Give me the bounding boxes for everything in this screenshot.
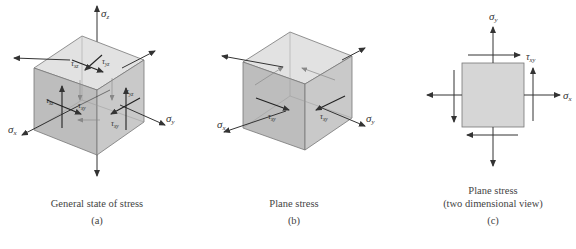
svg-text:σy: σy	[489, 10, 498, 24]
panel-a-cube	[14, 6, 165, 176]
svg-text:σy: σy	[366, 112, 375, 126]
caption-c: Plane stress	[433, 185, 553, 196]
label-a: (a)	[42, 215, 152, 226]
svg-text:σx: σx	[217, 118, 226, 132]
svg-text:σy: σy	[166, 112, 175, 126]
svg-text:σz: σz	[101, 7, 109, 21]
caption-b: Plane stress	[244, 198, 344, 209]
caption-a: General state of stress	[42, 198, 152, 209]
panel-b-cube	[222, 32, 365, 150]
caption-c-sub: (two dimensional view)	[433, 198, 553, 209]
panel-c-element	[427, 27, 560, 166]
label-c: (c)	[433, 215, 553, 226]
svg-text:τxy: τxy	[526, 51, 535, 63]
svg-text:σx: σx	[563, 89, 572, 103]
svg-text:σx: σx	[8, 123, 17, 137]
stress-diagram: σz σx σy τxz τyz τxz τxy τyz τxy σx σy τ…	[0, 0, 576, 249]
stress-element-square	[462, 63, 524, 127]
label-b: (b)	[244, 215, 344, 226]
